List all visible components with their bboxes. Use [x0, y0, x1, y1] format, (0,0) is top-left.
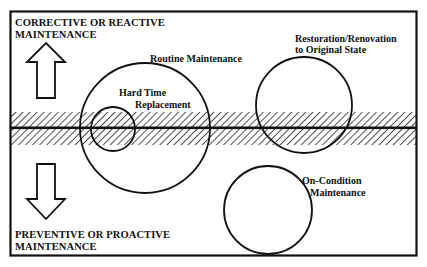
restoration-label-line2: to Original State: [295, 44, 397, 55]
preventive-maintenance-label: PREVENTIVE OR PROACTIVE MAINTENANCE: [15, 229, 170, 253]
arrow-up-icon: [27, 43, 65, 98]
corrective-label-line2: MAINTENANCE: [15, 29, 165, 41]
restoration-label-line1: Restoration/Renovation: [295, 33, 397, 44]
preventive-label-line1: PREVENTIVE OR PROACTIVE: [15, 229, 170, 241]
corrective-maintenance-label: CORRECTIVE OR REACTIVE MAINTENANCE: [15, 17, 165, 41]
routine-maintenance-label: Routine Maintenance: [150, 53, 242, 64]
on-condition-circle: [224, 166, 312, 254]
on-condition-label-line2: Maintenance: [310, 187, 366, 198]
preventive-label-line2: MAINTENANCE: [15, 241, 170, 253]
hard-time-label-line2: Replacement: [135, 99, 191, 110]
arrow-down-icon: [27, 164, 65, 219]
hard-time-label-line1: Hard Time: [119, 87, 166, 98]
restoration-label: Restoration/Renovation to Original State: [295, 33, 397, 55]
maintenance-diagram: CORRECTIVE OR REACTIVE MAINTENANCE PREVE…: [0, 0, 427, 267]
hatched-divider-band: [11, 112, 416, 145]
corrective-label-line1: CORRECTIVE OR REACTIVE: [15, 17, 165, 29]
on-condition-label-line1: On-Condition: [302, 175, 361, 186]
